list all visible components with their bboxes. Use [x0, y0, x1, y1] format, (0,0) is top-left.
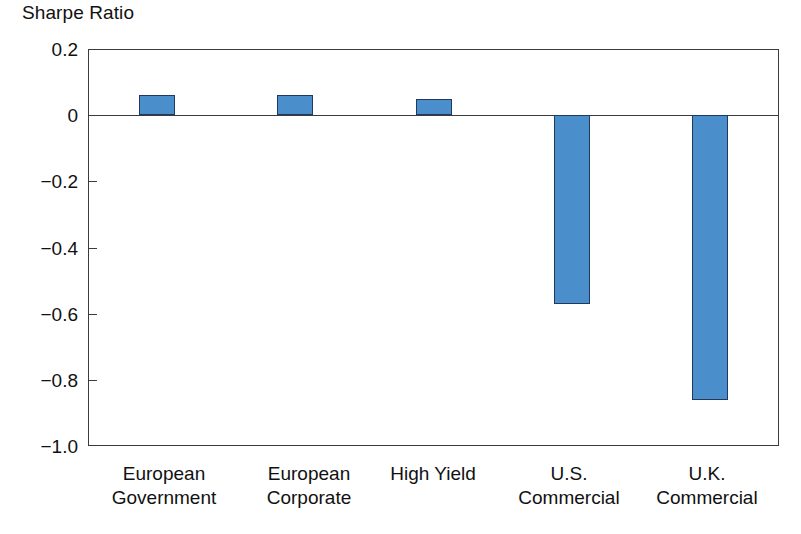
y-tick-mark-minus08	[88, 380, 97, 381]
x-category-label-european-government: European Government	[84, 462, 244, 510]
x-category-line2: Corporate	[229, 486, 389, 510]
y-tick-mark-minus02	[88, 181, 97, 182]
x-category-line1: U.K.	[627, 462, 787, 486]
x-category-label-high-yield: High Yield	[360, 462, 506, 486]
x-category-line2: Commercial	[489, 486, 649, 510]
x-category-line1: High Yield	[360, 462, 506, 486]
y-tick-mark-minus04	[88, 248, 97, 249]
x-category-line2: Commercial	[627, 486, 787, 510]
y-tick-text: 0	[0, 106, 78, 125]
y-tick-text: −0.4	[0, 239, 78, 258]
y-tick-text: −1.0	[0, 437, 78, 456]
zero-baseline	[88, 115, 779, 116]
x-category-label-us-commercial: U.S. Commercial	[489, 462, 649, 510]
y-tick-text: 0.2	[0, 40, 78, 59]
bar-european-corporate	[277, 95, 313, 115]
x-category-label-uk-commercial: U.K. Commercial	[627, 462, 787, 510]
chart-figure: Sharpe Ratio 0.2 0 −0.2 −0.4 −0.6 −0.8 −…	[0, 0, 801, 534]
bar-european-government	[139, 95, 175, 115]
y-tick-mark-minus06	[88, 314, 97, 315]
y-tick-text: −0.6	[0, 305, 78, 324]
y-tick-text: −0.8	[0, 371, 78, 390]
bar-us-commercial	[554, 115, 590, 304]
y-tick-label-1: 0	[0, 106, 78, 125]
y-tick-text: −0.2	[0, 172, 78, 191]
x-category-line2: Government	[84, 486, 244, 510]
y-tick-label-5: −0.8	[0, 371, 78, 390]
y-tick-label-4: −0.6	[0, 305, 78, 324]
y-tick-label-3: −0.4	[0, 239, 78, 258]
y-tick-label-2: −0.2	[0, 172, 78, 191]
x-category-line1: U.S.	[489, 462, 649, 486]
y-tick-label-0: 0.2	[0, 40, 78, 59]
y-tick-label-6: −1.0	[0, 437, 78, 456]
chart-title: Sharpe Ratio	[22, 1, 134, 24]
x-category-line1: European	[84, 462, 244, 486]
bar-uk-commercial	[692, 115, 728, 400]
bar-high-yield	[416, 99, 452, 116]
